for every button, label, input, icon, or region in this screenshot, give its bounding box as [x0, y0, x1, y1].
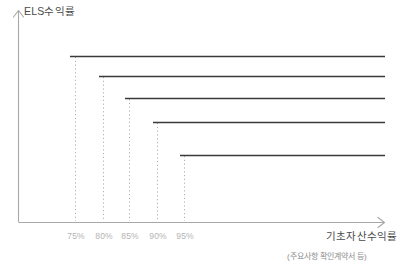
- x-tick-label-90: 90%: [149, 231, 166, 241]
- chart-caption: (주요사항 확인계약서 등): [287, 250, 367, 261]
- x-tick-label-80: 80%: [95, 231, 112, 241]
- x-tick-label-75: 75%: [67, 231, 84, 241]
- x-tick-label-95: 95%: [176, 231, 193, 241]
- y-axis-label: ELS수익률: [24, 3, 75, 18]
- x-tick-label-85: 85%: [121, 231, 138, 241]
- barrier-dotted-lines: [76, 57, 185, 221]
- step-payoff-lines: [70, 57, 385, 156]
- x-axis-label: 기초자산수익률: [326, 228, 397, 243]
